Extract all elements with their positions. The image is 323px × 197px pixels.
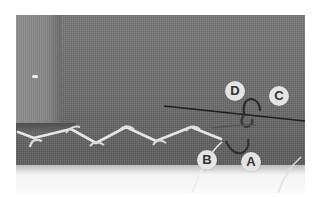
label-a: A bbox=[241, 152, 261, 172]
label-c: C bbox=[269, 86, 289, 106]
needle bbox=[164, 106, 305, 121]
stitch-drawing bbox=[16, 15, 305, 193]
thread-loop bbox=[244, 99, 260, 115]
label-b: B bbox=[197, 150, 217, 170]
stitch-photo bbox=[16, 15, 305, 193]
label-d: D bbox=[225, 81, 245, 101]
